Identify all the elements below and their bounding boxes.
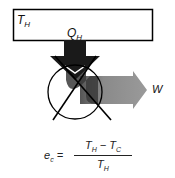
equation-numerator: TH − TC (74, 139, 132, 153)
equation-fraction: TH − TC TH (74, 139, 132, 172)
hot-reservoir-box (14, 10, 153, 41)
equation-denominator: TH (74, 158, 132, 172)
fraction-bar (74, 155, 132, 156)
work-label: W (152, 84, 162, 95)
equation-lhs: ec = (44, 149, 63, 163)
reservoir-label: TH (17, 14, 30, 29)
heat-in-label: QH (67, 27, 82, 42)
